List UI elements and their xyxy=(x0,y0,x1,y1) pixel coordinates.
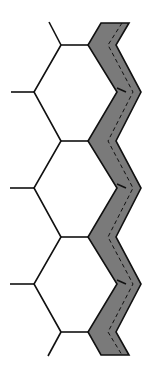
hexagon-band-diagram xyxy=(0,0,159,379)
shaded-band xyxy=(88,23,141,355)
hexagon-cells xyxy=(10,22,88,356)
